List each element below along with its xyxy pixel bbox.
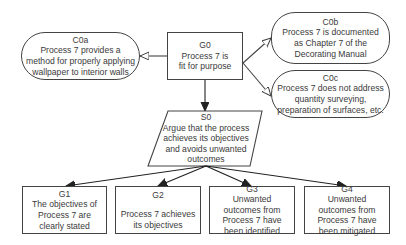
context-c0a: C0a Process 7 provides a method for prop… [21, 32, 140, 80]
goal-g1: G1 The objectives of Process 7 are clear… [22, 186, 107, 234]
node-text: Process 7 does not address quantity surv… [272, 83, 389, 115]
node-text: The objectives of Process 7 are clearly … [23, 199, 106, 231]
node-id: G4 [341, 184, 352, 195]
node-text: Process 7 achieves its objectives [116, 209, 200, 230]
goal-g3: G3 Unwanted outcomes from Process 7 have… [209, 186, 295, 234]
edge-g0-c0c [243, 63, 271, 96]
node-id: G0 [199, 40, 210, 51]
goal-g2: G2 Process 7 achieves its objectives [115, 186, 201, 234]
edge-g0-c0b [243, 38, 271, 63]
node-text: Process 7 is documented as Chapter 7 of … [272, 27, 389, 59]
node-text-line-1: Process 7 is [182, 51, 229, 62]
context-c0c: C0c Process 7 does not address quantity … [271, 70, 390, 118]
edge-s0-g1 [66, 166, 206, 186]
node-text: Unwanted outcomes from Process 7 have be… [210, 194, 294, 236]
goal-g0: G0 Process 7 is fit for purpose [167, 32, 243, 80]
strategy-s0: S0 Argue that the process achieves its o… [160, 111, 252, 166]
edge-s0-g4 [206, 166, 346, 186]
node-id: C0a [73, 35, 89, 46]
node-id: G1 [59, 189, 70, 200]
node-text-line-2: fit for purpose [179, 61, 232, 72]
goal-g4: G4 Unwanted outcomes from Process 7 have… [304, 186, 390, 234]
node-text: Argue that the process achieves its obje… [160, 123, 252, 165]
node-id: C0b [323, 17, 339, 28]
node-id: G2 [152, 190, 163, 201]
node-text: Process 7 provides a method for properly… [22, 45, 139, 77]
context-c0b: C0b Process 7 is documented as Chapter 7… [271, 12, 390, 64]
node-id: S0 [201, 112, 212, 123]
node-id: G3 [246, 184, 257, 195]
node-text: Unwanted outcomes from Process 7 have be… [305, 194, 389, 236]
node-id: C0c [323, 73, 338, 84]
